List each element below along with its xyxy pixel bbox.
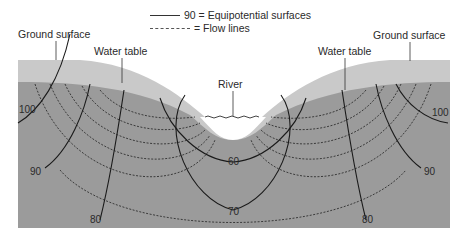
river-label: River: [218, 78, 243, 90]
equipotential-70: 70: [228, 206, 239, 217]
legend-value: 90: [184, 9, 196, 22]
equipotential-80-left: 80: [90, 214, 101, 225]
legend-equipotential: 90 = Equipotential surfaces: [150, 9, 311, 22]
legend-flow: = Flow lines: [150, 22, 311, 35]
equipotential-80-right: 80: [362, 214, 373, 225]
legend-flow-label: = Flow lines: [194, 22, 250, 35]
equipotential-100-right: 100: [432, 107, 449, 118]
legend: 90 = Equipotential surfaces = Flow lines: [150, 9, 311, 35]
water-table-label-right: Water table: [318, 45, 371, 57]
water-table-label-left: Water table: [94, 45, 147, 57]
legend-equipotential-label: = Equipotential surfaces: [199, 9, 311, 22]
ground-surface-label-left: Ground surface: [18, 28, 90, 40]
equipotential-60: 60: [228, 156, 239, 167]
dashed-line-swatch: [150, 28, 190, 29]
equipotential-90-left: 90: [30, 166, 41, 177]
ground-surface-label-right: Ground surface: [373, 29, 445, 41]
solid-line-swatch: [150, 15, 180, 16]
equipotential-100-left: 100: [19, 104, 36, 115]
equipotential-90-right: 90: [424, 166, 435, 177]
